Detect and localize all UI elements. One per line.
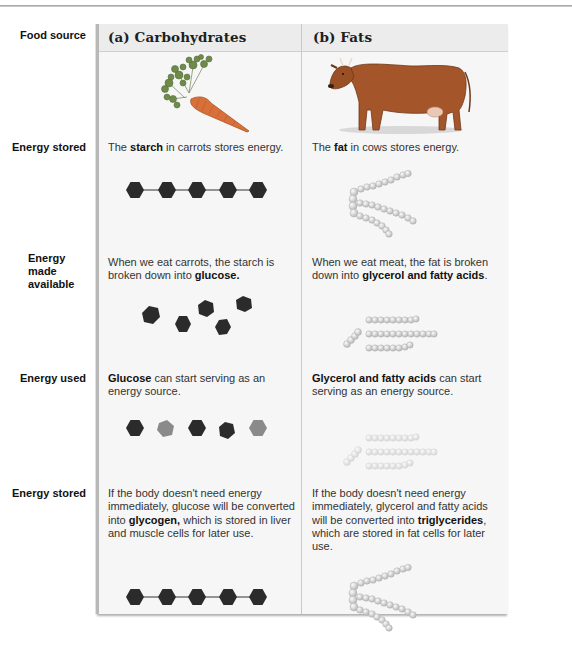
glycerol-and-fatty-acids-in-use bbox=[342, 432, 452, 476]
triglyceride-molecule-stored bbox=[342, 564, 452, 636]
column-title-fats: (b) Fats bbox=[313, 29, 372, 45]
carbs-energy-made-available-text: When we eat carrots, the starch is broke… bbox=[108, 256, 298, 283]
glucose-in-use-molecules bbox=[125, 418, 275, 448]
row-label-food-source: Food source bbox=[20, 29, 86, 42]
row-label-energy-stored-again: Energy stored bbox=[12, 487, 86, 500]
top-rule bbox=[0, 5, 572, 7]
glycogen-hexagon-chain bbox=[125, 585, 275, 609]
comparison-card: (a) Carbohydrates (b) Fats The starch in… bbox=[96, 24, 508, 614]
fats-energy-used-text: Glycerol and fatty acids can start servi… bbox=[312, 372, 504, 399]
glycerol-and-fatty-acids bbox=[342, 314, 452, 358]
glucose-molecules bbox=[139, 294, 269, 346]
fats-energy-stored-text: The fat in cows stores energy. bbox=[312, 141, 502, 154]
triglyceride-molecule bbox=[342, 170, 452, 242]
fats-energy-stored-again-text: If the body doesn't need energy immediat… bbox=[312, 487, 504, 553]
column-title-carbohydrates: (a) Carbohydrates bbox=[108, 29, 246, 45]
row-label-energy-used: Energy used bbox=[20, 372, 86, 385]
row-label-line1: Energy made bbox=[28, 252, 87, 278]
row-label-energy-made-available: Energy made available bbox=[28, 252, 87, 291]
carbs-energy-used-text: Glucose can start serving as an energy s… bbox=[108, 372, 298, 399]
cow-illustration bbox=[321, 54, 481, 134]
row-label-line2: available bbox=[28, 278, 87, 291]
carrot-illustration bbox=[149, 53, 269, 133]
fats-energy-made-available-text: When we eat meat, the fat is broken down… bbox=[312, 256, 502, 283]
carbs-energy-stored-text: The starch in carrots stores energy. bbox=[108, 141, 298, 154]
row-label-energy-stored: Energy stored bbox=[12, 141, 86, 154]
starch-hexagon-chain bbox=[125, 178, 275, 202]
carbs-energy-stored-again-text: If the body doesn't need energy immediat… bbox=[108, 487, 302, 540]
